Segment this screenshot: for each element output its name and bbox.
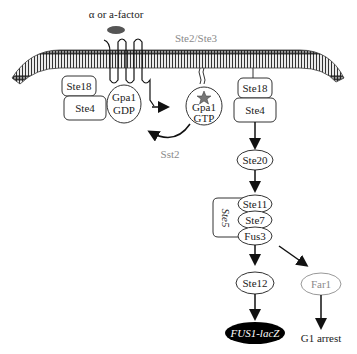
reporter-label: FUS1-lacZ <box>230 327 281 339</box>
ste7-label: Ste7 <box>245 214 265 226</box>
ste5-label: Ste5 <box>220 209 232 228</box>
ste11-label: Ste11 <box>243 198 268 210</box>
ste20-label: Ste20 <box>242 154 268 166</box>
pheromone-ligand <box>107 26 125 34</box>
fus3-label: Fus3 <box>244 230 266 242</box>
pathway-diagram: α or a-factor Ste2/Ste3 Ste18 Ste4 Gpa1 … <box>0 0 357 354</box>
ligand-label: α or a-factor <box>89 8 144 20</box>
far1-label: Far1 <box>311 278 331 290</box>
arrow-to-far1 <box>279 246 306 265</box>
gpa1-gtp-label-2: GTP <box>194 112 215 124</box>
ste12-label: Ste12 <box>242 277 267 289</box>
sst2-label: Sst2 <box>161 148 180 160</box>
ste18-left-label: Ste18 <box>66 80 92 92</box>
ste18-right-label: Ste18 <box>242 82 268 94</box>
ste5-scaffold: Ste5 Ste11 Ste7 Fus3 <box>213 195 272 245</box>
gpa1-gdp-label-2: GDP <box>113 104 135 116</box>
ste4-right-label: Ste4 <box>245 104 265 116</box>
cell-membrane <box>12 50 344 84</box>
gpa1-gdp-label-1: Gpa1 <box>112 91 136 103</box>
sst2-feedback-arrow <box>150 124 190 137</box>
receptor-label: Ste2/Ste3 <box>175 32 218 44</box>
g1-arrest-label: G1 arrest <box>301 332 342 344</box>
gpa1-gtp: Gpa1 GTP <box>186 68 222 125</box>
right-gbg-complex: Ste18 Ste4 <box>234 68 276 122</box>
ste4-left-label: Ste4 <box>75 102 95 114</box>
